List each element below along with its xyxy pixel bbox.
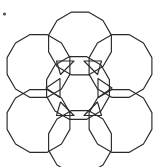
- circle-lower-left: [7, 90, 70, 153]
- circle-lower-right: [89, 90, 152, 153]
- triangles-layer: [46, 61, 112, 116]
- circles-layer: [7, 12, 152, 167]
- figure-canvas: [0, 0, 156, 167]
- gap-left: [46, 79, 60, 98]
- corner-dot: [3, 12, 6, 15]
- marks-layer: [3, 12, 6, 15]
- packing-diagram-svg: [0, 0, 156, 167]
